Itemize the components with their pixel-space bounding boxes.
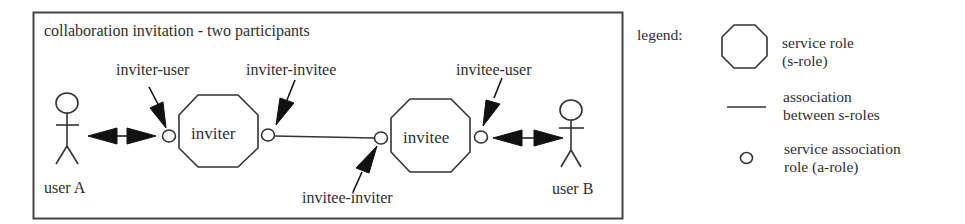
legend-item-a-role-line1: service association	[784, 140, 901, 157]
label-invitee-inviter: invitee-inviter	[302, 189, 393, 206]
legend-octagon-icon	[722, 25, 767, 68]
legend-item-service-role-line2: (s-role)	[782, 52, 828, 69]
collaboration-frame	[34, 13, 623, 219]
actor-user-b-icon	[559, 100, 584, 167]
legend-title: legend:	[637, 26, 683, 43]
legend-circle-icon	[741, 153, 753, 164]
label-inviter-user: inviter-user	[116, 61, 189, 78]
association-line	[275, 136, 374, 138]
legend-item-association-line1: association	[783, 88, 852, 105]
actor-label-user-b: user B	[552, 180, 593, 197]
s-role-label-invitee: invitee	[403, 129, 449, 146]
label-inviter-invitee: inviter-invitee	[246, 61, 336, 78]
double-arrow-user-b	[493, 130, 563, 146]
a-role-inviter-invitee	[262, 129, 275, 141]
s-role-label-inviter: inviter	[191, 125, 235, 142]
a-role-invitee-inviter	[375, 132, 388, 144]
pointer-arrow-inviter-user	[149, 87, 166, 128]
pointer-arrow-invitee-user	[483, 78, 502, 126]
double-arrow-user-a	[88, 128, 156, 144]
pointer-arrow-invitee-inviter	[353, 146, 377, 192]
a-role-invitee-user	[475, 131, 488, 143]
pointer-arrow-inviter-invitee	[276, 80, 295, 125]
actor-user-a-icon	[56, 93, 79, 164]
actor-label-user-a: user A	[44, 179, 85, 196]
a-role-inviter-user	[163, 130, 176, 142]
legend-item-association-line2: between s-roles	[783, 106, 880, 123]
legend-item-a-role-line2: role (a-role)	[784, 158, 858, 175]
diagram-title: collaboration invitation - two participa…	[44, 22, 310, 39]
legend-item-service-role-line1: service role	[782, 34, 854, 51]
label-invitee-user: invitee-user	[456, 61, 532, 78]
